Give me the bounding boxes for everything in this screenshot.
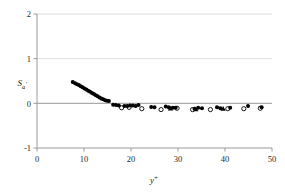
y-tick-label: 1 — [27, 54, 31, 64]
x-tick-label: 20 — [127, 154, 136, 164]
data-point — [117, 104, 121, 108]
data-point — [137, 103, 141, 107]
x-tick-label: 10 — [80, 154, 89, 164]
scatter-plot: 01020304050 -1012 y+ Sa' — [0, 0, 285, 194]
x-tick-label: 50 — [268, 154, 277, 164]
x-tick-label: 30 — [174, 154, 183, 164]
data-point — [200, 106, 204, 110]
data-point — [246, 104, 250, 108]
data-point — [153, 105, 157, 109]
y-tick-label: 2 — [27, 9, 31, 19]
chart-container: 01020304050 -1012 y+ Sa' — [0, 0, 285, 194]
y-tick-label: 0 — [27, 99, 31, 109]
plot-background — [0, 0, 285, 194]
y-tick-label: -1 — [24, 143, 31, 153]
x-tick-label: 40 — [221, 154, 230, 164]
data-point — [107, 99, 111, 103]
x-tick-label: 0 — [35, 154, 39, 164]
